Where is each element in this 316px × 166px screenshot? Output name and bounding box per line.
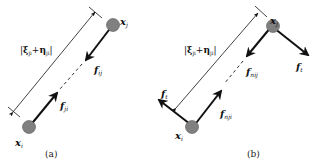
particle-label-xj-b: xj	[270, 11, 278, 27]
distance-dimension-line-b	[176, 6, 267, 108]
force-label-fnij: fnij	[246, 62, 258, 78]
particle-xj-a	[107, 19, 120, 32]
particle-label-xj-a: xj	[120, 12, 128, 28]
particle-label-xi-a: xi	[15, 133, 23, 149]
force-label-fnji: fnji	[220, 104, 232, 120]
particle-xi-b	[186, 121, 199, 134]
force-arrow-fnij	[247, 27, 271, 56]
force-arrow-ft-j	[274, 28, 308, 55]
force-arrow-fij	[86, 26, 112, 60]
force-label-ft-i: ft	[161, 84, 168, 100]
distance-label-b: |ξji+ηji|	[184, 46, 216, 57]
diagram-canvas	[0, 0, 316, 166]
force-label-fji: fji	[60, 96, 68, 112]
particle-xi-a	[23, 121, 36, 134]
panel-a	[8, 7, 120, 134]
particle-label-xi-b: xi	[175, 126, 183, 142]
caption-a: (a)	[45, 150, 57, 159]
force-arrow-fnji	[193, 91, 221, 127]
caption-b: (b)	[247, 150, 260, 159]
distance-label-a: |ξji+ηji|	[20, 46, 52, 57]
force-label-fij: fij	[94, 60, 102, 76]
force-arrow-ft-i	[159, 100, 190, 124]
force-label-ft-j: ft	[296, 57, 303, 73]
panel-b	[159, 6, 308, 134]
dashed-connector-a	[60, 64, 82, 89]
dashed-connector-b	[224, 61, 243, 84]
distance-dimension-line-a	[8, 7, 102, 117]
